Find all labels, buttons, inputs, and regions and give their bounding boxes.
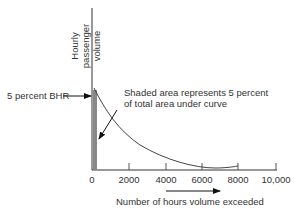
x-tick-2000: 2000	[118, 174, 139, 185]
shaded-label-line1: Shaded area represents 5 percent	[124, 87, 268, 98]
shaded-leader	[99, 110, 117, 139]
y-axis-label-line1: Hourly passenger	[69, 10, 91, 82]
shaded-area	[93, 90, 97, 170]
x-ticks	[129, 163, 276, 170]
shaded-area-label: Shaded area represents 5 percent of tota…	[124, 87, 268, 109]
x-axis-label: Number of hours volume exceeded	[116, 196, 264, 207]
x-tick-4000: 4000	[155, 174, 176, 185]
y-axis-label: Hourly passenger volume	[69, 10, 102, 82]
y-axis-label-line2: volume	[91, 10, 102, 82]
shaded-label-line2: of total area under curve	[124, 98, 268, 109]
x-tick-6000: 6000	[191, 174, 212, 185]
bhr-label: 5 percent BHR	[7, 90, 69, 101]
x-tick-10000: 10,000	[261, 174, 290, 185]
x-tick-8000: 8000	[227, 174, 248, 185]
x-tick-0: 0	[89, 174, 94, 185]
